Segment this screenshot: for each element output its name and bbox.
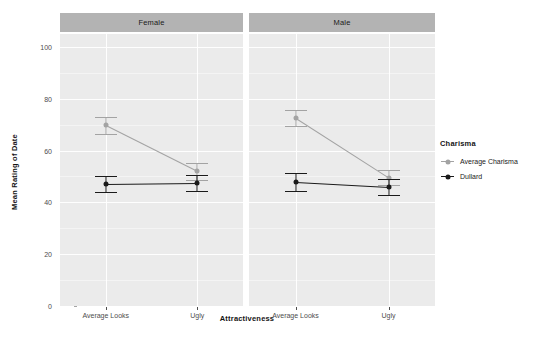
x-tick-label: Average Looks bbox=[272, 312, 319, 319]
gridline-minor-horizontal bbox=[249, 73, 435, 74]
gridline-major-horizontal bbox=[249, 99, 435, 100]
x-tick-label: Ugly bbox=[190, 312, 204, 319]
x-tick-label: Ugly bbox=[381, 312, 395, 319]
panel-plot-area bbox=[60, 34, 243, 306]
data-point bbox=[293, 115, 298, 120]
legend-items: Average CharismaDullard bbox=[440, 154, 544, 184]
error-bar-cap bbox=[378, 195, 400, 196]
data-point bbox=[293, 179, 298, 184]
facet-strip-label: Female bbox=[60, 13, 243, 32]
gridline-major-horizontal bbox=[60, 47, 243, 48]
x-tick-mark bbox=[197, 307, 198, 310]
error-bar-cap bbox=[186, 175, 208, 176]
data-point bbox=[103, 123, 108, 128]
legend: Charisma Average CharismaDullard bbox=[440, 139, 544, 184]
error-bar-cap bbox=[95, 134, 117, 135]
gridline-major-vertical bbox=[296, 34, 297, 306]
error-bar-cap bbox=[378, 179, 400, 180]
series-line-average-charisma bbox=[295, 118, 389, 178]
error-bar-cap bbox=[285, 126, 307, 127]
x-tick-mark bbox=[106, 307, 107, 310]
gridline-minor-horizontal bbox=[60, 228, 243, 229]
error-bar-cap bbox=[285, 110, 307, 111]
gridline-major-horizontal bbox=[60, 99, 243, 100]
data-point bbox=[195, 181, 200, 186]
legend-key-icon bbox=[440, 154, 455, 169]
legend-item: Average Charisma bbox=[440, 154, 544, 169]
y-axis-title: Mean Rating of Date bbox=[10, 134, 19, 210]
gridline-minor-horizontal bbox=[60, 176, 243, 177]
error-bar-cap bbox=[186, 163, 208, 164]
error-bar-cap bbox=[95, 192, 117, 193]
legend-item-label: Dullard bbox=[460, 173, 482, 180]
series-line-dullard bbox=[295, 182, 388, 188]
y-tick-label: 40 bbox=[44, 199, 52, 206]
x-tick-mark bbox=[296, 307, 297, 310]
error-bar-cap bbox=[186, 191, 208, 192]
gridline-major-horizontal bbox=[249, 202, 435, 203]
gridline-minor-horizontal bbox=[249, 125, 435, 126]
y-tick-label: 80 bbox=[44, 95, 52, 102]
legend-key-icon bbox=[440, 169, 455, 184]
gridline-major-vertical bbox=[106, 34, 107, 306]
x-axis-title: Attractiveness bbox=[220, 314, 275, 323]
data-point bbox=[386, 184, 391, 189]
gridline-minor-horizontal bbox=[249, 176, 435, 177]
error-bar-cap bbox=[95, 117, 117, 118]
legend-title: Charisma bbox=[440, 139, 544, 148]
x-tick-mark bbox=[389, 307, 390, 310]
data-point bbox=[103, 182, 108, 187]
gridline-minor-horizontal bbox=[249, 228, 435, 229]
gridline-minor-horizontal bbox=[60, 73, 243, 74]
ggplot-chart: Mean Rating of Date Attractiveness 02040… bbox=[0, 0, 548, 344]
error-bar-cap bbox=[378, 170, 400, 171]
panel-plot-area bbox=[249, 34, 435, 306]
gridline-major-horizontal bbox=[60, 202, 243, 203]
legend-item: Dullard bbox=[440, 169, 544, 184]
gridline-major-horizontal bbox=[249, 47, 435, 48]
series-line-average-charisma bbox=[106, 125, 198, 172]
gridline-minor-horizontal bbox=[249, 280, 435, 281]
gridline-minor-horizontal bbox=[60, 280, 243, 281]
y-axis-ticks: 020406080100 bbox=[22, 0, 52, 344]
y-tick-label: 20 bbox=[44, 251, 52, 258]
y-tick-label: 0 bbox=[48, 303, 52, 310]
y-tick-label: 100 bbox=[40, 43, 52, 50]
error-bar-cap bbox=[285, 191, 307, 192]
gridline-minor-horizontal bbox=[60, 125, 243, 126]
x-tick-label: Average Looks bbox=[82, 312, 129, 319]
legend-item-label: Average Charisma bbox=[460, 158, 518, 165]
gridline-major-horizontal bbox=[249, 151, 435, 152]
y-tick-label: 60 bbox=[44, 147, 52, 154]
error-bar-cap bbox=[95, 176, 117, 177]
gridline-major-horizontal bbox=[60, 151, 243, 152]
gridline-major-horizontal bbox=[249, 254, 435, 255]
series-line-dullard bbox=[106, 183, 198, 185]
gridline-major-horizontal bbox=[60, 254, 243, 255]
data-point bbox=[195, 169, 200, 174]
error-bar-cap bbox=[285, 173, 307, 174]
facet-strip-label: Male bbox=[249, 13, 435, 32]
